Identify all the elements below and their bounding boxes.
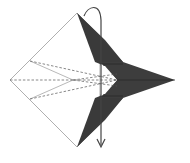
origami-diagram: [0, 0, 190, 163]
